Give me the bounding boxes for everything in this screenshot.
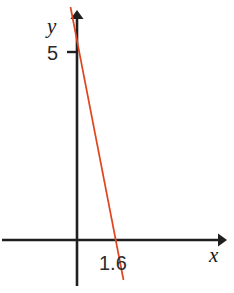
- plot-canvas: y x 5 1.6: [0, 0, 234, 293]
- line-graph-figure: y x 5 1.6: [0, 0, 234, 293]
- x-intercept-tick-label: 1.6: [99, 252, 127, 274]
- y-intercept-tick-label: 5: [47, 42, 58, 64]
- x-axis-arrowhead-icon: [218, 234, 227, 247]
- y-axis-label: y: [45, 14, 57, 38]
- x-axis-label: x: [208, 243, 219, 267]
